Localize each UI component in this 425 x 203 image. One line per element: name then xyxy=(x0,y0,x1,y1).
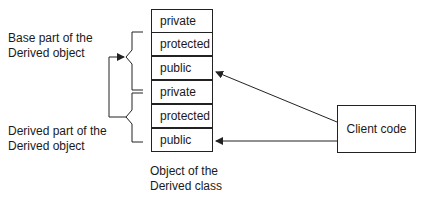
inheritance-connector xyxy=(109,57,126,117)
client-to-base-public-arrow xyxy=(216,72,337,122)
base-part-label: Base part of the Derived object xyxy=(8,31,93,61)
cell-derived-public: public xyxy=(151,128,213,152)
object-caption-line2: Derived class xyxy=(150,179,222,194)
derived-label-line1: Derived part of the xyxy=(8,124,107,139)
derived-brace xyxy=(126,93,143,142)
derived-label-line2: Derived object xyxy=(8,139,107,154)
derived-part-label: Derived part of the Derived object xyxy=(8,124,107,154)
base-label-line1: Base part of the xyxy=(8,31,93,46)
cell-derived-protected: protected xyxy=(151,104,213,128)
object-caption: Object of the Derived class xyxy=(150,164,222,194)
client-code-box: Client code xyxy=(337,105,416,153)
base-brace xyxy=(126,32,143,90)
cell-derived-private: private xyxy=(151,80,213,104)
cell-base-private: private xyxy=(151,9,213,33)
cell-base-public: public xyxy=(151,56,213,80)
base-label-line2: Derived object xyxy=(8,46,93,61)
object-caption-line1: Object of the xyxy=(150,164,222,179)
cell-base-protected: protected xyxy=(151,32,213,56)
